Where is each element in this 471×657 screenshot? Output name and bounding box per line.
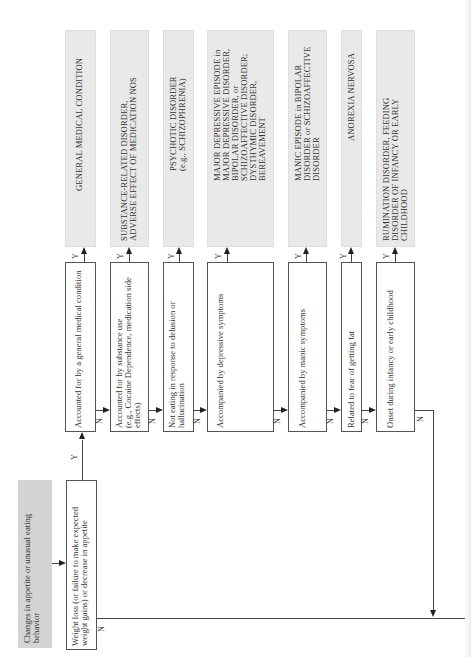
decision-label: Not eating in response to delusion or ha… xyxy=(168,263,186,428)
connector-yes xyxy=(395,254,396,262)
outcome-label: RUMINATION DISORDER, FEEDING DISORDER OF… xyxy=(382,31,409,241)
arrow-right-icon xyxy=(103,407,110,413)
connector-yes xyxy=(129,254,130,262)
decision-label: Accounted for by a general medical condi… xyxy=(74,263,83,428)
connector-last-no-vertical xyxy=(433,410,434,610)
connector-yes xyxy=(306,254,307,262)
connector-no-return xyxy=(97,618,471,619)
outcome-label: GENERAL MEDICAL CONDITION xyxy=(75,0,84,191)
arrow-right-icon xyxy=(281,407,288,413)
arrow-up-icon xyxy=(126,247,132,254)
arrow-right-icon xyxy=(334,407,341,413)
no-label: N xyxy=(326,416,336,426)
yes-label: Y xyxy=(294,251,304,261)
connector-yes xyxy=(84,254,85,262)
decision-psychotic: Not eating in response to delusion or ha… xyxy=(163,262,194,432)
decision-fear-of-fat: Related to fear of getting fat xyxy=(341,262,362,432)
yes-label: Y xyxy=(339,251,349,261)
arrow-right-icon xyxy=(369,407,376,413)
decision-substance: Accounted for by substance use (e.g., Co… xyxy=(110,262,149,432)
outcome-anorexia: ANOREXIA NERVOSA xyxy=(341,30,362,247)
decision-label: Accompanied by depressive symptoms xyxy=(216,263,225,428)
yes-label: Y xyxy=(116,251,126,261)
arrow-down-icon xyxy=(430,610,436,617)
page-edge-shadow xyxy=(465,0,471,657)
outcome-label: MAJOR DEPRESSIVE EPISODE in MAJOR DEPRES… xyxy=(213,31,267,181)
entry-node-label: Weight loss (or failure to make expected… xyxy=(71,481,89,646)
arrow-up-icon xyxy=(81,247,87,254)
connector-last-no-horizontal xyxy=(414,410,434,411)
yes-label: Y xyxy=(167,251,177,261)
connector-yes xyxy=(227,254,228,262)
connector-entry-yes xyxy=(82,440,83,480)
decision-manic: Accompanied by manic symptoms xyxy=(288,262,327,432)
no-label: N xyxy=(193,416,203,426)
decision-label: Related to fear of getting fat xyxy=(347,263,356,428)
start-node: Changes in appetite or unusual eating be… xyxy=(18,480,52,648)
outcome-label: PSYCHOTIC DISORDER (e.g., SCHIZOPHRENIA) xyxy=(169,31,187,171)
decision-label: Onset during infancy or early childhood xyxy=(386,263,395,428)
start-node-label: Changes in appetite or unusual eating be… xyxy=(23,483,41,643)
outcome-label: MANIC EPISODE in BIPOLAR DISORDER or SCH… xyxy=(294,31,321,181)
entry-node: Weight loss (or failure to make expected… xyxy=(66,480,97,650)
decision-general-medical: Accounted for by a general medical condi… xyxy=(65,262,96,432)
outcome-rumination: RUMINATION DISORDER, FEEDING DISORDER OF… xyxy=(376,30,415,247)
arrow-up-icon xyxy=(224,247,230,254)
no-label: N xyxy=(95,416,105,426)
outcome-label: ANOREXIA NERVOSA xyxy=(347,31,356,141)
decision-infancy-onset: Onset during infancy or early childhood xyxy=(376,262,415,432)
arrow-right-icon xyxy=(156,407,163,413)
outcome-psychotic: PSYCHOTIC DISORDER (e.g., SCHIZOPHRENIA) xyxy=(163,30,194,247)
arrow-right-icon xyxy=(59,560,66,566)
outcome-substance: SUBSTANCE-RELATED DISORDER, ADVERSE EFFE… xyxy=(110,30,149,247)
entry-no-label: N xyxy=(97,624,107,634)
last-no-label: N xyxy=(416,414,426,424)
arrow-right-icon xyxy=(200,407,207,413)
outcome-depressive: MAJOR DEPRESSIVE EPISODE in MAJOR DEPRES… xyxy=(207,30,274,247)
arrow-up-icon xyxy=(79,432,85,439)
decision-label: Accompanied by manic symptoms xyxy=(298,263,307,428)
no-label: N xyxy=(148,416,158,426)
outcome-general-medical: GENERAL MEDICAL CONDITION xyxy=(65,30,96,247)
yes-label: Y xyxy=(382,251,392,261)
outcome-manic: MANIC EPISODE in BIPOLAR DISORDER or SCH… xyxy=(288,30,327,247)
no-label: N xyxy=(273,416,283,426)
yes-label: Y xyxy=(214,251,224,261)
entry-yes-label: Y xyxy=(70,452,80,462)
connector-yes xyxy=(351,254,352,262)
no-label: N xyxy=(361,416,371,426)
decision-depressive: Accompanied by depressive symptoms xyxy=(207,262,274,432)
outcome-label: SUBSTANCE-RELATED DISORDER, ADVERSE EFFE… xyxy=(120,31,138,241)
yes-label: Y xyxy=(71,251,81,261)
decision-label: Accounted for by substance use (e.g., Co… xyxy=(115,263,142,428)
arrow-up-icon xyxy=(392,247,398,254)
connector-yes xyxy=(179,254,180,262)
